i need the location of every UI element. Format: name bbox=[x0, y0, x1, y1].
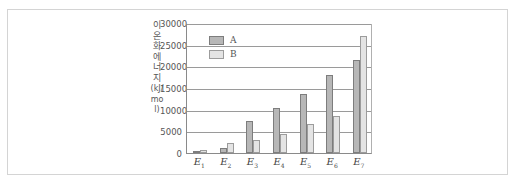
legend-swatch-a bbox=[209, 36, 224, 45]
y-tick-label: 5000 bbox=[160, 127, 182, 137]
y-tick-label: 20000 bbox=[160, 62, 182, 72]
bar-a-e7 bbox=[353, 60, 360, 153]
y-tick-label: 15000 bbox=[160, 84, 182, 94]
bar-b-e5 bbox=[307, 124, 314, 153]
bar-b-e7 bbox=[360, 36, 367, 153]
legend-swatch-b bbox=[209, 50, 224, 59]
bar-b-e4 bbox=[280, 134, 287, 153]
legend-label-a: A bbox=[230, 35, 237, 45]
bar-a-e1 bbox=[193, 151, 200, 153]
bar-b-e2 bbox=[227, 143, 234, 153]
x-tick-label: E4 bbox=[269, 156, 289, 169]
gridline bbox=[187, 89, 371, 90]
bar-a-e5 bbox=[300, 94, 307, 153]
bar-a-e6 bbox=[326, 75, 333, 153]
x-tick-label: E1 bbox=[189, 156, 209, 169]
bar-b-e1 bbox=[200, 150, 207, 153]
bar-b-e6 bbox=[333, 116, 340, 153]
y-tick-label: 10000 bbox=[160, 106, 182, 116]
legend: A B bbox=[209, 33, 237, 61]
gridline bbox=[187, 24, 371, 25]
x-tick-label: E7 bbox=[349, 156, 369, 169]
y-tick-label: 0 bbox=[160, 149, 182, 159]
x-tick-label: E3 bbox=[242, 156, 262, 169]
y-tick-label: 30000 bbox=[160, 19, 182, 29]
gridline bbox=[187, 67, 371, 68]
x-tick-label: E6 bbox=[322, 156, 342, 169]
legend-label-b: B bbox=[230, 49, 237, 59]
x-tick-label: E2 bbox=[216, 156, 236, 169]
y-tick-label: 25000 bbox=[160, 41, 182, 51]
bar-a-e2 bbox=[220, 148, 227, 153]
bar-b-e3 bbox=[253, 140, 260, 153]
y-axis-label-text: 이온화에너지 bbox=[153, 20, 161, 83]
legend-item-b: B bbox=[209, 47, 237, 61]
legend-item-a: A bbox=[209, 33, 237, 47]
bar-a-e3 bbox=[246, 121, 253, 153]
x-tick-label: E5 bbox=[296, 156, 316, 169]
bar-a-e4 bbox=[273, 108, 280, 154]
